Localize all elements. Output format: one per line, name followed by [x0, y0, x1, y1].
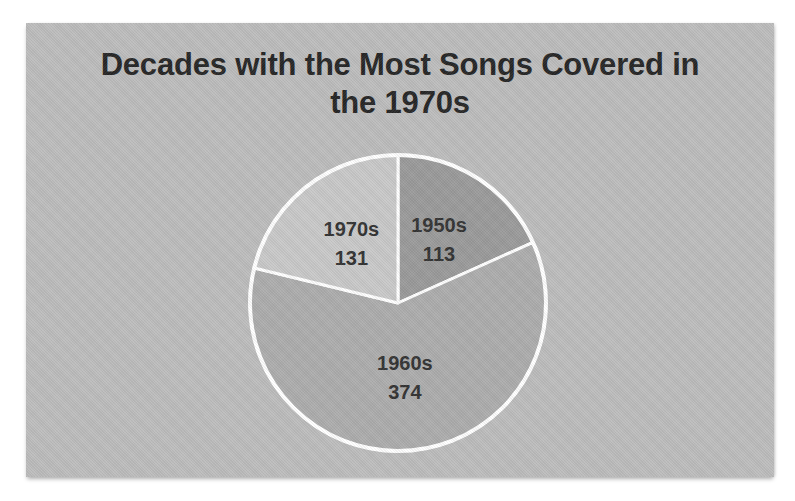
chart-title: Decades with the Most Songs Covered in t…	[26, 46, 774, 122]
slice-category: 1970s	[324, 215, 380, 244]
pie-slice-label-1950s: 1950s113	[411, 211, 467, 269]
chart-title-line1: Decades with the Most Songs Covered in	[26, 46, 774, 84]
slice-value: 374	[377, 378, 433, 407]
slice-category: 1960s	[377, 349, 433, 378]
slice-value: 113	[411, 240, 467, 269]
chart-title-line2: the 1970s	[26, 84, 774, 122]
pie-slice-label-1970s: 1970s131	[324, 215, 380, 273]
pie-slice-label-1960s: 1960s374	[377, 349, 433, 407]
page-background: Decades with the Most Songs Covered in t…	[0, 0, 795, 501]
slice-value: 131	[324, 244, 380, 273]
slice-category: 1950s	[411, 211, 467, 240]
